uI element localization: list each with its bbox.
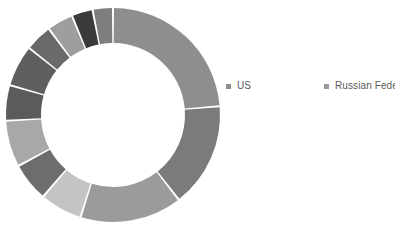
legend-item[interactable]: Russian Federation [324, 78, 395, 94]
legend-item-label: US [237, 81, 251, 91]
donut-chart-canvas [0, 0, 230, 230]
legend-item-label: Russian Federation [335, 81, 395, 91]
donut-segment[interactable] [114, 8, 220, 108]
legend-swatch-icon [226, 84, 231, 89]
donut-segment[interactable] [158, 107, 220, 199]
donut-chart-figure: USRussian FederationIraqUnited Arab Emir… [0, 0, 395, 230]
chart-legend: USRussian FederationIraqUnited Arab Emir… [226, 78, 395, 94]
legend-item[interactable]: US [226, 78, 324, 94]
donut-segment[interactable] [82, 172, 178, 222]
legend-swatch-icon [324, 84, 329, 89]
